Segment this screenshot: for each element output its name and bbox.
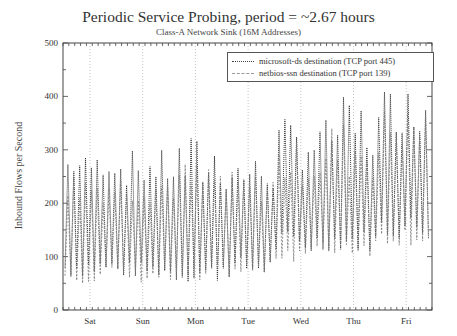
legend: microsoft-ds destination (TCP port 445) … xyxy=(227,52,434,82)
legend-item-microsoft-ds: microsoft-ds destination (TCP port 445) xyxy=(232,55,395,67)
x-tick-label: Tue xyxy=(241,316,255,326)
x-tick-label: Mon xyxy=(187,316,205,326)
plot-frame xyxy=(63,43,432,310)
x-tick-label: Sun xyxy=(136,316,151,326)
x-tick-label: Thu xyxy=(346,316,361,326)
dashed-line-swatch-icon xyxy=(232,73,254,74)
y-tick-label: 200 xyxy=(45,198,59,208)
dotted-line-swatch-icon xyxy=(232,61,254,62)
y-tick-label: 0 xyxy=(54,305,59,315)
legend-label: microsoft-ds destination (TCP port 445) xyxy=(259,56,395,66)
x-tick-label: Fri xyxy=(401,316,412,326)
y-tick-label: 100 xyxy=(45,252,59,262)
series-line-0 xyxy=(65,92,429,282)
y-tick-label: 400 xyxy=(45,91,59,101)
legend-item-netbios-ssn: netbios-ssn destination (TCP port 139) xyxy=(232,67,390,79)
legend-label: netbios-ssn destination (TCP port 139) xyxy=(259,68,390,78)
plot-area: SatSunMonTueWedThuFri0100200300400500 xyxy=(0,0,457,336)
x-tick-label: Wed xyxy=(293,316,310,326)
y-tick-label: 300 xyxy=(45,145,59,155)
y-tick-label: 500 xyxy=(45,38,59,48)
x-tick-label: Sat xyxy=(84,316,96,326)
